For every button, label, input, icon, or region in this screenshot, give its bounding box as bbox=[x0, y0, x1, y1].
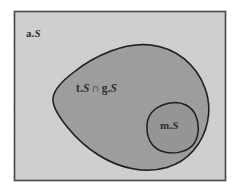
intersection-right-symbol: S bbox=[111, 82, 118, 94]
intersection-right-prefix: g. bbox=[102, 82, 111, 94]
set-diagram-figure: a.S t.S∩g.S m.S bbox=[0, 0, 240, 192]
inner-set-label: m.S bbox=[160, 120, 178, 131]
inner-set-label-prefix: m. bbox=[160, 119, 172, 131]
universe-label-symbol: S bbox=[34, 27, 40, 39]
intersection-left-prefix: t. bbox=[76, 82, 83, 94]
inner-set-label-symbol: S bbox=[172, 119, 178, 131]
universe-label: a.S bbox=[26, 28, 41, 39]
intersection-operator-icon: ∩ bbox=[89, 82, 101, 94]
intersection-label: t.S∩g.S bbox=[76, 83, 117, 95]
